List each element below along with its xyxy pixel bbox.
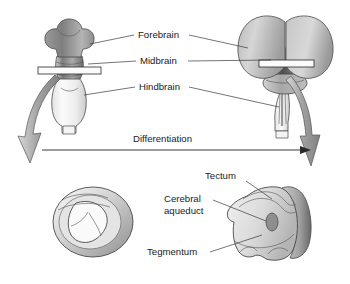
embryonic-section-plane	[38, 67, 101, 74]
cerebral-aqueduct-label-line1: Cerebral	[164, 193, 201, 204]
hindbrain-label: Hindbrain	[139, 81, 180, 92]
cerebral-aqueduct-label-line2: aqueduct	[164, 205, 204, 216]
tegmentum-label: Tegmentum	[147, 246, 197, 257]
embryonic-spinal-cord	[63, 126, 75, 134]
adult-section-plane	[259, 60, 314, 67]
adult-spinal-cord	[276, 131, 288, 138]
midbrain-label: Midbrain	[140, 55, 177, 66]
cerebral-aqueduct-opening	[266, 213, 278, 231]
brain-differentiation-figure: Differentiation	[0, 0, 350, 284]
forebrain-label: Forebrain	[138, 29, 179, 40]
differentiation-label: Differentiation	[133, 133, 192, 144]
tectum-label: Tectum	[205, 170, 236, 181]
embryonic-cross-section	[53, 187, 133, 257]
